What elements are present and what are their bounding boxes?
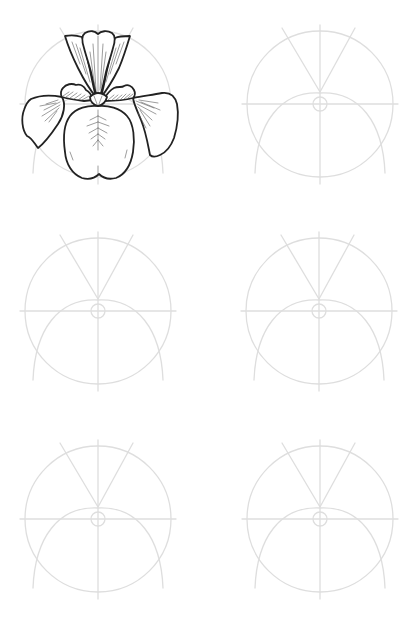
guide-panel-5	[20, 440, 176, 599]
left-fall-petal	[22, 96, 64, 148]
guide-v-right-line	[320, 28, 355, 92]
guide-v-left-line	[60, 235, 98, 299]
guide-v-left-line	[281, 235, 319, 299]
drawing-canvas	[0, 0, 420, 626]
guide-v-left-line	[282, 443, 320, 507]
guide-panel-4	[241, 232, 397, 391]
guide-v-right-line	[320, 443, 355, 507]
guide-v-right-line	[98, 443, 133, 507]
guide-panel-6	[242, 440, 398, 599]
guide-v-right-line	[319, 235, 354, 299]
guide-panel-3	[20, 232, 176, 391]
guide-v-left-line	[282, 28, 320, 92]
guide-v-left-line	[60, 443, 98, 507]
guide-v-right-line	[98, 235, 133, 299]
guide-panel-2	[242, 25, 398, 184]
